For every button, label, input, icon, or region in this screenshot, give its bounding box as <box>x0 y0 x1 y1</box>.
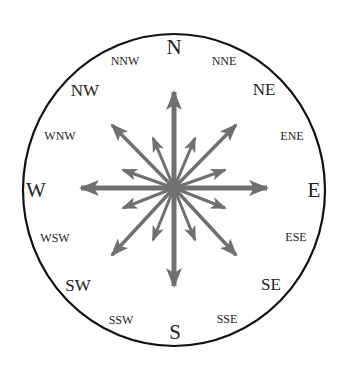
label-ene: ENE <box>280 129 303 143</box>
label-nw: NW <box>71 81 100 100</box>
label-ese: ESE <box>285 230 306 244</box>
label-wsw: WSW <box>40 231 70 245</box>
label-se: SE <box>261 275 281 294</box>
arrow-se <box>174 188 236 255</box>
label-sse: SSE <box>217 312 238 326</box>
label-nne: NNE <box>212 54 237 68</box>
center-hub <box>168 182 180 194</box>
label-ssw: SSW <box>109 313 134 327</box>
label-ne: NE <box>253 80 276 99</box>
label-sw: SW <box>65 276 91 295</box>
compass-rose-diagram: N NNE NE ENE E ESE SE SSE S SSW SW WSW W… <box>0 0 341 370</box>
label-w: W <box>26 178 46 202</box>
label-e: E <box>308 178 321 202</box>
label-n: N <box>166 35 181 59</box>
label-nnw: NNW <box>111 54 140 68</box>
label-wnw: WNW <box>44 129 76 143</box>
arrow-sw <box>112 188 174 255</box>
label-s: S <box>169 320 181 344</box>
